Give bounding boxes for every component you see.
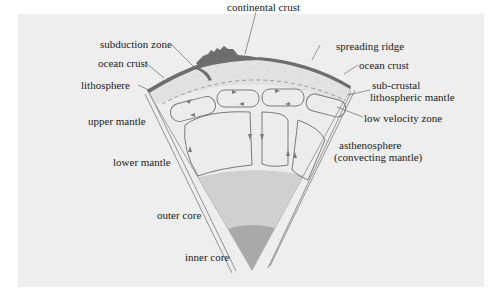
- label-outer-core: outer core: [157, 209, 201, 221]
- label-sub-crustal-line2: lithospheric mantle: [370, 91, 455, 103]
- label-lithosphere: lithosphere: [81, 79, 130, 91]
- label-ocean-crust-left: ocean crust: [98, 57, 148, 69]
- label-upper-mantle: upper mantle: [88, 115, 146, 127]
- label-inner-core: inner core: [185, 251, 229, 263]
- earth-cross-section: [0, 0, 499, 301]
- inner-core: [220, 225, 286, 270]
- label-asthenosphere-line2: (convecting mantle): [334, 151, 422, 163]
- label-sub-crustal-line1: sub-crustal: [372, 79, 420, 91]
- label-asthenosphere-line1: asthenosphere: [339, 139, 401, 151]
- label-spreading-ridge: spreading ridge: [336, 40, 404, 52]
- label-subduction-zone: subduction zone: [100, 38, 172, 50]
- label-lower-mantle: lower mantle: [113, 156, 171, 168]
- label-continental-crust: continental crust: [227, 1, 300, 13]
- label-low-velocity-zone: low velocity zone: [364, 112, 442, 124]
- label-ocean-crust-right: ocean crust: [359, 59, 409, 71]
